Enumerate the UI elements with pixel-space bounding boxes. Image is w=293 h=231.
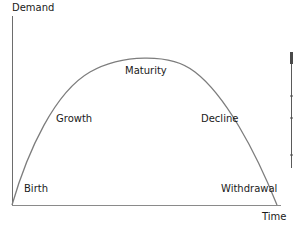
stage-label-birth: Birth bbox=[24, 183, 48, 195]
stage-label-decline: Decline bbox=[201, 113, 238, 125]
stage-label-withdrawal: Withdrawal bbox=[221, 183, 277, 195]
life-cycle-chart bbox=[0, 0, 293, 231]
x-axis-label: Time bbox=[262, 211, 286, 223]
stage-label-growth: Growth bbox=[56, 113, 92, 125]
side-scale-fragment bbox=[290, 52, 293, 168]
y-axis-label: Demand bbox=[12, 2, 54, 14]
stage-label-maturity: Maturity bbox=[125, 65, 167, 77]
